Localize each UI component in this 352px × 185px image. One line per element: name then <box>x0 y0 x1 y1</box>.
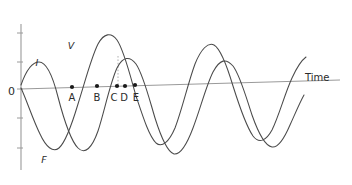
marker-dot-b[interactable] <box>95 84 99 88</box>
marker-dot-e[interactable] <box>133 83 137 87</box>
x-axis-time <box>20 80 340 89</box>
curve-label-voltage: V <box>68 40 76 51</box>
curve-label-current: I <box>36 57 39 68</box>
marker-dot-c[interactable] <box>115 84 119 88</box>
point-label-c: C <box>111 92 118 103</box>
point-label-b: B <box>94 92 101 103</box>
axis-marker-dots <box>70 83 137 89</box>
waveform-figure: 0 Time I V F A B C D E <box>0 0 352 185</box>
origin-label: 0 <box>8 85 15 98</box>
curve-voltage <box>21 35 306 150</box>
curve-label-trough-f: F <box>41 154 47 165</box>
marker-dot-d[interactable] <box>123 84 127 88</box>
point-label-a: A <box>69 92 76 103</box>
marker-dot-a[interactable] <box>70 85 74 89</box>
point-label-d: D <box>120 92 128 103</box>
curve-current <box>21 58 304 154</box>
x-axis-label: Time <box>304 72 329 83</box>
waveform-plot: 0 Time I V F A B C D E <box>0 0 352 185</box>
point-label-e: E <box>133 92 139 103</box>
